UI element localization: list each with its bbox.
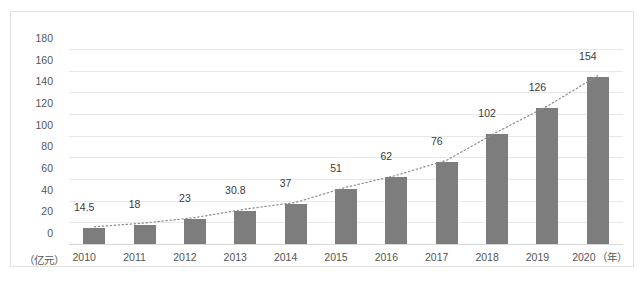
x-axis-tick-2014: 2014: [259, 252, 313, 263]
bar-label-2012: 23: [158, 193, 212, 204]
y-axis-tick-0: 0: [13, 228, 53, 239]
gridline-160: [69, 71, 623, 72]
x-axis-tick-label: 2019: [526, 251, 549, 263]
bar-label-2020: 154: [561, 51, 615, 62]
x-axis-tick-label: 2010: [72, 251, 95, 263]
bar-label-2019: 126: [510, 82, 564, 93]
x-axis-tick-label: 2014: [274, 251, 297, 263]
x-axis-tick-2011: 2011: [108, 252, 162, 263]
bar-2016: [385, 177, 407, 244]
x-axis-tick-label: 2012: [173, 251, 196, 263]
bar-2012: [184, 219, 206, 244]
y-axis-tick-100: 100: [13, 120, 53, 131]
chart-container: （亿元） 020406080100120140160180 14.5182330…: [10, 11, 634, 267]
x-axis-tick-2010: 2010: [57, 252, 111, 263]
bar-2020: [587, 77, 609, 244]
x-axis-tick-label: 2011: [123, 251, 146, 263]
x-axis-tick-label: 2018: [475, 251, 498, 263]
bar-2011: [134, 225, 156, 245]
bar-2015: [335, 189, 357, 244]
x-axis-tick-2016: 2016: [359, 252, 413, 263]
bar-2010: [83, 228, 105, 244]
x-axis-tick-2017: 2017: [410, 252, 464, 263]
x-axis-tick-label: 2017: [425, 251, 448, 263]
y-axis-tick-20: 20: [13, 206, 53, 217]
gridline-180: [69, 49, 623, 50]
bar-2017: [436, 162, 458, 244]
x-axis-tick-label: 2020: [572, 251, 595, 263]
bar-2014: [285, 204, 307, 244]
gridline-0: [69, 244, 623, 245]
x-axis-tick-label: 2016: [375, 251, 398, 263]
y-axis-tick-40: 40: [13, 185, 53, 196]
y-axis-tick-80: 80: [13, 141, 53, 152]
bar-label-2013: 30.8: [208, 185, 262, 196]
x-axis-tick-2020: 2020（年）: [561, 252, 639, 263]
x-axis-tick-2018: 2018: [460, 252, 514, 263]
y-axis-tick-60: 60: [13, 163, 53, 174]
x-axis-tick-2019: 2019: [510, 252, 564, 263]
bar-2018: [486, 134, 508, 245]
y-axis-tick-120: 120: [13, 98, 53, 109]
x-axis-tick-2015: 2015: [309, 252, 363, 263]
y-axis-tick-160: 160: [13, 55, 53, 66]
x-axis-tick-label: 2015: [324, 251, 347, 263]
x-axis-tick-2012: 2012: [158, 252, 212, 263]
x-axis-tick-2013: 2013: [208, 252, 262, 263]
x-axis-unit-label: （年）: [597, 251, 627, 263]
bar-label-2014: 37: [259, 178, 313, 189]
bar-label-2010: 14.5: [57, 202, 111, 213]
y-axis-tick-180: 180: [13, 33, 53, 44]
bar-2013: [234, 211, 256, 244]
plot-area: [69, 49, 623, 244]
x-axis-tick-label: 2013: [224, 251, 247, 263]
bar-label-2017: 76: [410, 136, 464, 147]
y-axis-tick-140: 140: [13, 76, 53, 87]
bar-label-2018: 102: [460, 108, 514, 119]
bar-label-2011: 18: [108, 199, 162, 210]
bar-label-2016: 62: [359, 151, 413, 162]
bar-2019: [536, 108, 558, 245]
bar-label-2015: 51: [309, 163, 363, 174]
